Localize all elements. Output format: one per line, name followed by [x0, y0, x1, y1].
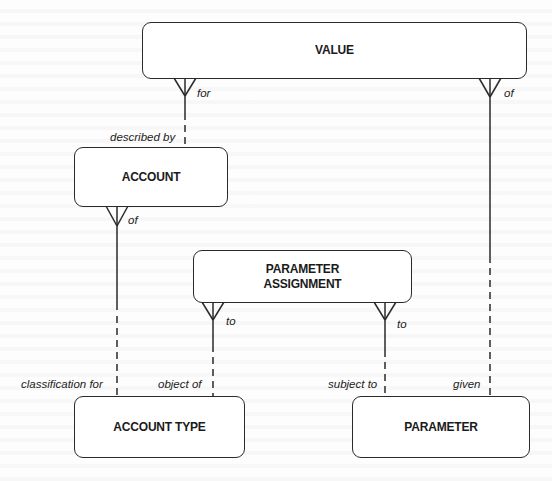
label-classification-for: classification for: [21, 378, 103, 391]
entity-account-type-label: ACCOUNT TYPE: [113, 420, 205, 435]
label-described-by: described by: [110, 131, 175, 144]
label-pa-to-right: to: [397, 318, 407, 331]
crows-foot-icon: [374, 302, 385, 320]
label-object-of: object of: [158, 378, 201, 391]
relationship-pa-parameter: [374, 302, 396, 396]
entity-value[interactable]: VALUE: [142, 22, 527, 79]
entity-value-label: VALUE: [315, 43, 354, 58]
entity-account-type[interactable]: ACCOUNT TYPE: [74, 396, 245, 458]
entity-account-label: ACCOUNT: [122, 170, 181, 185]
entity-account[interactable]: ACCOUNT: [74, 147, 228, 207]
entity-parameter-label: PARAMETER: [404, 420, 477, 435]
relationship-value-parameter: [479, 78, 501, 396]
crows-foot-icon: [202, 302, 213, 320]
label-given: given: [453, 378, 481, 391]
crows-foot-icon: [106, 206, 117, 226]
label-pa-to-left: to: [226, 315, 236, 328]
entity-parameter-assignment[interactable]: PARAMETER ASSIGNMENT: [193, 250, 412, 303]
entity-parameter-assignment-label: PARAMETER ASSIGNMENT: [263, 262, 341, 292]
relationship-account-accounttype: [106, 206, 128, 396]
crows-foot-icon: [174, 78, 185, 96]
relationship-pa-accounttype: [202, 302, 224, 396]
crows-foot-icon: [479, 78, 490, 97]
label-value-of: of: [504, 87, 514, 100]
label-value-for: for: [197, 87, 210, 100]
label-account-of: of: [128, 214, 138, 227]
relationship-value-account: [174, 78, 196, 147]
entity-parameter[interactable]: PARAMETER: [352, 396, 530, 458]
label-subject-to: subject to: [328, 378, 377, 391]
